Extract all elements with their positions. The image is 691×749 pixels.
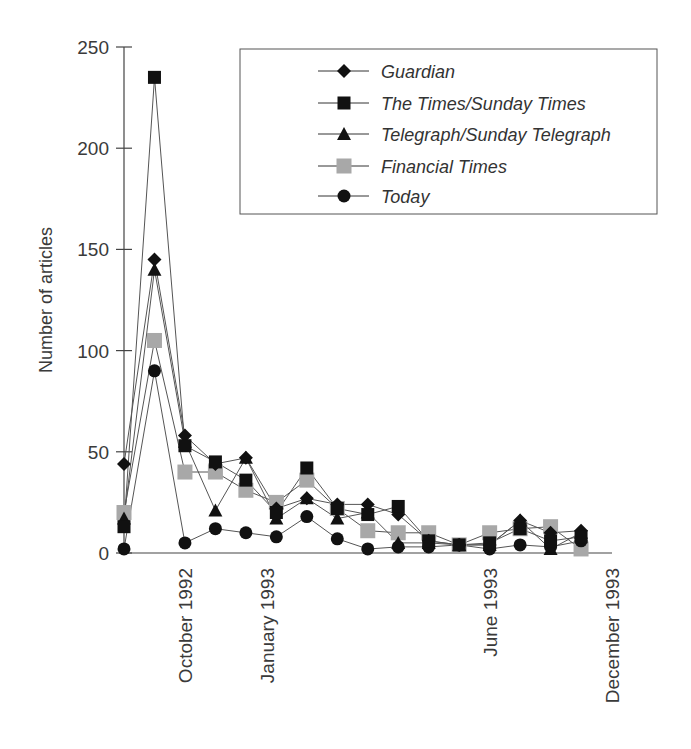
square-marker bbox=[209, 455, 222, 468]
series-markers-guardian bbox=[117, 253, 588, 552]
y-tick-label: 250 bbox=[77, 37, 109, 58]
circle-marker bbox=[331, 532, 344, 545]
square-marker bbox=[299, 473, 314, 488]
square-marker bbox=[239, 474, 252, 487]
square-marker bbox=[361, 508, 374, 521]
legend-label: Telegraph/Sunday Telegraph bbox=[381, 125, 611, 145]
triangle-marker bbox=[208, 503, 222, 516]
series-line-telegraph-sunday-telegraph bbox=[124, 270, 581, 549]
circle-marker bbox=[338, 190, 351, 203]
square-marker bbox=[270, 506, 283, 519]
circle-marker bbox=[239, 526, 252, 539]
x-tick-label: January 1993 bbox=[257, 568, 278, 683]
square-marker bbox=[148, 71, 161, 84]
square-marker bbox=[178, 439, 191, 452]
x-tick-label: October 1992 bbox=[175, 568, 196, 683]
diamond-marker bbox=[147, 253, 161, 267]
circle-marker bbox=[361, 542, 374, 555]
square-marker bbox=[392, 500, 405, 513]
square-marker bbox=[422, 534, 435, 547]
square-marker bbox=[118, 520, 131, 533]
y-tick-label: 150 bbox=[77, 239, 109, 260]
square-marker bbox=[300, 461, 313, 474]
square-marker bbox=[575, 530, 588, 543]
square-marker bbox=[147, 333, 162, 348]
square-marker bbox=[338, 97, 351, 110]
line-chart: 050100150200250Number of articlesOctober… bbox=[0, 0, 691, 749]
legend-label: Guardian bbox=[381, 62, 455, 82]
circle-marker bbox=[178, 536, 191, 549]
legend-label: Financial Times bbox=[381, 157, 507, 177]
circle-marker bbox=[209, 522, 222, 535]
square-marker bbox=[337, 159, 352, 174]
y-tick-label: 50 bbox=[88, 442, 109, 463]
square-marker bbox=[453, 538, 466, 551]
y-tick-label: 100 bbox=[77, 341, 109, 362]
circle-marker bbox=[118, 542, 131, 555]
y-tick-label: 200 bbox=[77, 138, 109, 159]
series-line-financial-times bbox=[124, 341, 581, 550]
x-tick-label: June 1993 bbox=[480, 568, 501, 657]
circle-marker bbox=[300, 510, 313, 523]
y-tick-label: 0 bbox=[98, 543, 109, 564]
y-axis-title: Number of articles bbox=[36, 227, 56, 373]
square-marker bbox=[360, 523, 375, 538]
square-marker bbox=[331, 502, 344, 515]
legend: GuardianThe Times/Sunday TimesTelegraph/… bbox=[240, 49, 657, 214]
x-tick-label: December 1993 bbox=[602, 568, 623, 703]
square-marker bbox=[514, 522, 527, 535]
legend-label: The Times/Sunday Times bbox=[381, 94, 586, 114]
circle-marker bbox=[148, 364, 161, 377]
circle-marker bbox=[514, 538, 527, 551]
square-marker bbox=[483, 536, 496, 549]
circle-marker bbox=[270, 530, 283, 543]
square-marker bbox=[544, 534, 557, 547]
legend-label: Today bbox=[381, 187, 430, 207]
series-line-guardian bbox=[124, 260, 581, 545]
square-marker bbox=[177, 465, 192, 480]
